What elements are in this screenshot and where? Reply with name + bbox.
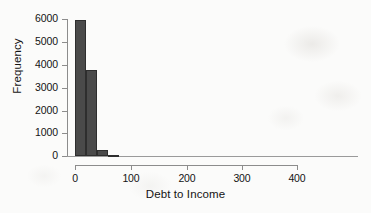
histogram-bar — [108, 155, 119, 157]
chart-figure: 6000 5000 4000 3000 2000 1000 0 0 100 20… — [0, 0, 371, 213]
histogram-bar — [86, 70, 97, 156]
histogram-bar — [97, 150, 108, 156]
y-axis-line — [67, 19, 68, 157]
y-tick-label-2000: 2000 — [35, 105, 58, 116]
y-tick-5000 — [62, 42, 67, 43]
histogram-bar — [75, 20, 86, 156]
x-tick-label-0: 0 — [72, 172, 78, 184]
y-tick-label-5000: 5000 — [35, 36, 58, 47]
x-tick-0 — [75, 165, 76, 170]
y-tick-2000 — [62, 111, 67, 112]
x-tick-300 — [242, 165, 243, 170]
y-tick-3000 — [62, 88, 67, 89]
x-tick-100 — [131, 165, 132, 170]
y-tick-4000 — [62, 65, 67, 66]
x-axis-title: Debt to Income — [0, 188, 371, 200]
x-tick-label-200: 200 — [178, 172, 195, 184]
y-tick-6000 — [62, 19, 67, 20]
x-tick-label-300: 300 — [233, 172, 250, 184]
y-tick-label-0: 0 — [52, 150, 58, 161]
plot-area: 6000 5000 4000 3000 2000 1000 0 0 100 20… — [0, 0, 371, 213]
y-tick-label-3000: 3000 — [35, 82, 58, 93]
x-tick-label-100: 100 — [122, 172, 139, 184]
y-tick-label-1000: 1000 — [35, 127, 58, 138]
y-tick-label-6000: 6000 — [35, 13, 58, 24]
x-tick-label-400: 400 — [288, 172, 305, 184]
y-tick-1000 — [62, 133, 67, 134]
x-tick-200 — [187, 165, 188, 170]
y-tick-label-4000: 4000 — [35, 59, 58, 70]
y-tick-0 — [62, 156, 67, 157]
x-tick-400 — [297, 165, 298, 170]
y-axis-title: Frequency — [11, 16, 23, 116]
